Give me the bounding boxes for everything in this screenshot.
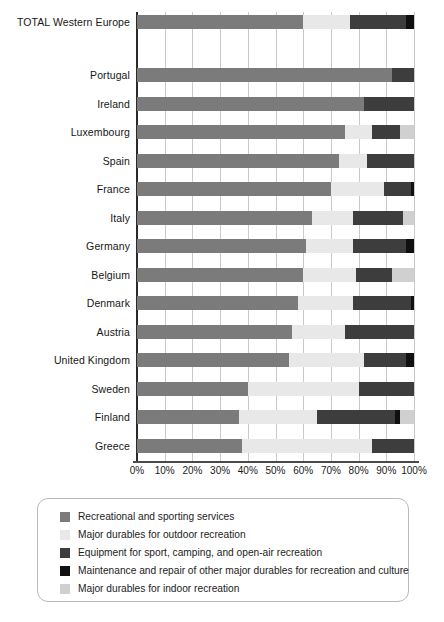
bar-segment [403,211,414,225]
bar-segment [137,68,392,82]
bar-segment [364,97,414,111]
bar-segment [298,296,353,310]
bar-row: Sweden [0,381,444,397]
stacked-bar [137,353,414,367]
chart-legend: Recreational and sporting servicesMajor … [37,498,409,602]
bar-segment [239,410,317,424]
bar-segment [406,353,414,367]
bar-segment [406,15,414,29]
bar-segment [137,154,339,168]
stacked-bar [137,382,414,396]
legend-swatch-icon [60,548,70,558]
bar-row: United Kingdom [0,352,444,368]
bar-segment [367,154,414,168]
bar-row-label: Denmark [0,295,130,311]
bar-row: TOTAL Western Europe [0,14,444,30]
bar-row: Portugal [0,67,444,83]
bar-row: Denmark [0,295,444,311]
legend-swatch-icon [60,512,70,522]
stacked-bar [137,296,414,310]
plot-area: TOTAL Western EuropePortugalIrelandLuxem… [0,0,444,492]
legend-swatch-icon [60,566,70,576]
bar-row-label: TOTAL Western Europe [0,14,130,30]
bar-segment [306,239,353,253]
legend-item[interactable]: Major durables for outdoor recreation [60,528,246,542]
legend-label: Maintenance and repair of other major du… [78,564,409,578]
stacked-bar [137,182,414,196]
bar-row-label: Luxembourg [0,124,130,140]
legend-item[interactable]: Equipment for sport, camping, and open-a… [60,546,322,560]
bar-segment [345,125,373,139]
bar-segment [392,268,414,282]
x-tick-label: 100% [391,464,437,478]
legend-label: Equipment for sport, camping, and open-a… [78,546,322,560]
bar-segment [339,154,367,168]
bar-segment [137,211,312,225]
bar-row: Germany [0,238,444,254]
bar-row-label: United Kingdom [0,352,130,368]
stacked-bar [137,97,414,111]
stacked-bar [137,154,414,168]
legend-item[interactable]: Major durables for indoor recreation [60,582,239,596]
legend-label: Major durables for indoor recreation [78,582,239,596]
legend-item[interactable]: Maintenance and repair of other major du… [60,564,409,578]
stacked-bar [137,410,414,424]
bar-row-label: France [0,181,130,197]
bar-row: Belgium [0,267,444,283]
bar-row: Greece [0,438,444,454]
bar-segment [317,410,395,424]
bar-segment [137,182,331,196]
bar-segment [292,325,345,339]
legend-item[interactable]: Recreational and sporting services [60,510,234,524]
bar-segment [353,239,406,253]
stacked-bar [137,239,414,253]
bar-segment [384,182,412,196]
bar-row-label: Sweden [0,381,130,397]
bar-row: Spain [0,153,444,169]
bar-segment [359,382,414,396]
bar-row: Italy [0,210,444,226]
bar-row: Ireland [0,96,444,112]
bar-segment [137,239,306,253]
stacked-bar [137,125,414,139]
bar-segment [137,439,242,453]
legend-label: Major durables for outdoor recreation [78,528,246,542]
bar-segment [137,382,248,396]
bar-segment [303,268,356,282]
bar-segment [353,211,403,225]
stacked-bar [137,211,414,225]
legend-label: Recreational and sporting services [78,510,234,524]
stacked-bar [137,15,414,29]
bar-segment [400,410,414,424]
bar-segment [372,439,414,453]
bar-segment [364,353,406,367]
legend-swatch-icon [60,530,70,540]
bar-segment [372,125,400,139]
bar-segment [303,15,350,29]
bar-segment [137,97,364,111]
bar-segment [350,15,405,29]
bar-row: France [0,181,444,197]
stacked-bar-chart: TOTAL Western EuropePortugalIrelandLuxem… [0,0,444,492]
x-axis-tick-labels: 0%10%20%30%40%50%60%70%80%90%100% [0,464,444,480]
x-axis-line [133,461,419,463]
bar-segment [345,325,414,339]
bar-row-label: Finland [0,409,130,425]
bar-segment [137,15,303,29]
stacked-bar [137,268,414,282]
bar-segment [411,182,414,196]
bar-segment [406,239,414,253]
bar-segment [137,125,345,139]
bar-row-label: Ireland [0,96,130,112]
bar-row-label: Austria [0,324,130,340]
bar-row: Finland [0,409,444,425]
stacked-bar [137,439,414,453]
bar-segment [242,439,372,453]
bar-segment [248,382,359,396]
stacked-bar [137,68,414,82]
bar-row-label: Spain [0,153,130,169]
bar-segment [137,410,239,424]
bar-row: Luxembourg [0,124,444,140]
bar-row-label: Germany [0,238,130,254]
bar-row-label: Greece [0,438,130,454]
